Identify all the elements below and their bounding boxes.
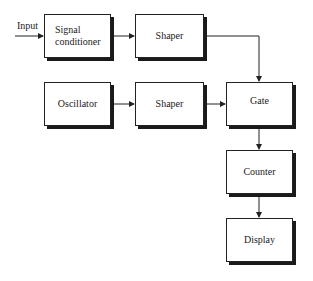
- arrow-shaper-gate: [206, 36, 259, 81]
- block-label: Shaper: [156, 98, 184, 110]
- block-gate: Gate: [226, 82, 293, 126]
- block-label: Shaper: [156, 30, 184, 42]
- block-label: Gate: [250, 95, 269, 107]
- block-counter: Counter: [226, 150, 293, 194]
- block-label: Display: [244, 234, 275, 246]
- block-oscillator: Oscillator: [44, 82, 111, 126]
- block-label: Oscillator: [58, 98, 97, 110]
- block-shaper-mid: Shaper: [135, 82, 204, 126]
- block-shaper-top: Shaper: [135, 14, 204, 58]
- input-label: Input: [17, 20, 38, 31]
- block-display: Display: [226, 218, 293, 262]
- block-signal-conditioner: Signal conditioner: [44, 14, 111, 58]
- block-label: Signal conditioner: [55, 24, 103, 48]
- block-label: Counter: [243, 166, 275, 178]
